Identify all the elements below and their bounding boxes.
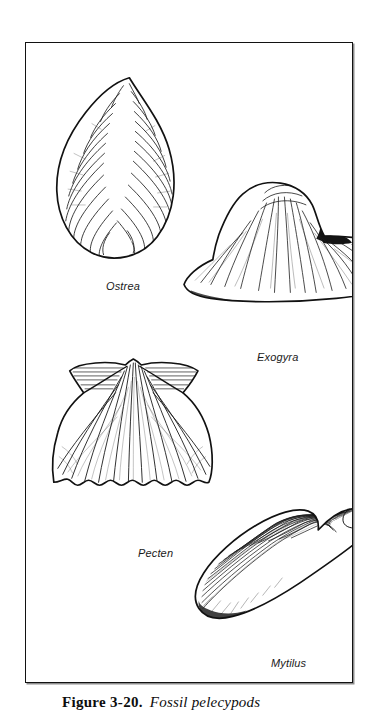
specimen-label-exogyra: Exogyra <box>257 351 298 363</box>
specimen-ostrea-drawing <box>46 64 195 278</box>
specimen-mytilus-drawing <box>173 481 352 640</box>
figure-page: Ostrea Exogyra Pecten Mytilus Figure 3-2… <box>0 0 376 718</box>
specimen-pecten-drawing <box>52 347 231 506</box>
specimen-exogyra-drawing <box>167 163 352 342</box>
specimen-label-ostrea: Ostrea <box>106 280 140 292</box>
figure-frame: Ostrea Exogyra Pecten Mytilus Figure 3-2… <box>25 42 353 683</box>
specimen-label-pecten: Pecten <box>138 547 173 559</box>
fossil-plate-illustration <box>26 43 352 682</box>
figure-caption-number: Figure 3-20. <box>62 694 143 710</box>
figure-caption-text: Fossil pelecypods <box>150 694 260 710</box>
figure-caption: Figure 3-20.Fossil pelecypods <box>62 694 260 711</box>
specimen-label-mytilus: Mytilus <box>271 657 306 669</box>
